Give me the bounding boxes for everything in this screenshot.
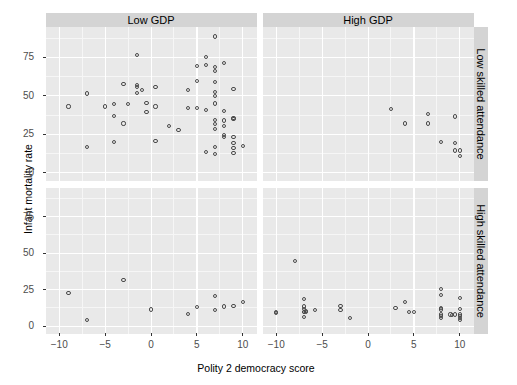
gridline-minor-vertical — [219, 188, 220, 334]
data-point — [439, 293, 443, 297]
data-point — [439, 287, 443, 291]
data-point — [222, 109, 226, 113]
data-point — [66, 104, 70, 108]
data-point — [293, 259, 297, 263]
panel-high-gdp-high-skilled-attendance — [263, 188, 474, 334]
data-point — [231, 151, 235, 155]
data-point — [121, 121, 125, 125]
gridline-major-vertical — [59, 27, 60, 181]
data-point — [302, 315, 306, 319]
data-point — [213, 145, 217, 149]
data-point — [112, 140, 116, 144]
x-axis-title: Polity 2 democracy score — [46, 362, 466, 374]
facet-strip-high-skilled-attendance: High skilled attendance — [474, 188, 488, 334]
data-point — [195, 106, 199, 110]
data-point — [453, 141, 457, 145]
gridline-minor-vertical — [82, 27, 83, 181]
data-point — [149, 307, 153, 311]
data-point — [66, 291, 70, 295]
gridline-major-vertical — [105, 188, 106, 334]
data-point — [213, 122, 217, 126]
gridline-minor-vertical — [345, 188, 346, 334]
data-point — [439, 140, 443, 144]
data-point — [112, 102, 116, 106]
data-point — [231, 117, 235, 121]
data-point — [204, 108, 208, 112]
data-point — [304, 310, 308, 314]
data-point — [85, 91, 89, 95]
data-point — [231, 146, 235, 150]
x-axis-tick-mark — [368, 333, 369, 336]
data-point — [153, 139, 157, 143]
data-point — [407, 310, 411, 314]
x-axis-tick-label: −5 — [307, 339, 337, 350]
gridline-major-vertical — [242, 188, 243, 334]
y-axis-tick-label: 25 — [8, 129, 34, 139]
y-axis-tick-label: 50 — [8, 91, 34, 101]
gridline-minor-vertical — [173, 27, 174, 181]
gridline-major-vertical — [151, 27, 152, 181]
data-point — [153, 85, 157, 89]
data-point — [153, 104, 157, 108]
data-point — [126, 102, 130, 106]
data-point — [348, 316, 352, 320]
data-point — [453, 312, 457, 316]
x-axis-tick-mark — [322, 333, 323, 336]
data-point — [222, 124, 226, 128]
gridline-minor-vertical — [299, 188, 300, 334]
data-point — [144, 110, 148, 114]
facet-strip-high-gdp: High GDP — [263, 13, 474, 27]
x-axis-tick-mark — [242, 333, 243, 336]
data-point — [313, 308, 317, 312]
data-point — [213, 69, 217, 73]
y-axis-tick-mark — [43, 289, 46, 290]
y-axis-tick-mark — [43, 216, 46, 217]
data-point — [121, 82, 125, 86]
data-point — [135, 91, 139, 95]
data-point — [393, 306, 397, 310]
data-point — [241, 144, 245, 148]
gridline-major-vertical — [151, 188, 152, 334]
data-point — [140, 88, 144, 92]
data-point — [453, 148, 457, 152]
data-point — [213, 294, 217, 298]
data-point — [85, 145, 89, 149]
y-axis-tick-mark — [43, 57, 46, 58]
panel-high-gdp-low-skilled-attendance — [263, 27, 474, 181]
data-point — [231, 304, 235, 308]
gridline-major-horizontal — [263, 216, 474, 217]
data-point — [222, 118, 226, 122]
data-point — [439, 316, 443, 320]
data-point — [213, 118, 217, 122]
x-axis-tick-mark — [59, 333, 60, 336]
data-point — [458, 148, 462, 152]
x-axis-tick-mark — [276, 333, 277, 336]
y-axis-tick-mark — [43, 326, 46, 327]
data-point — [231, 141, 235, 145]
data-point — [121, 278, 125, 282]
data-point — [85, 318, 89, 322]
data-point — [213, 80, 217, 84]
data-point — [167, 124, 171, 128]
data-point — [389, 107, 393, 111]
x-axis-tick-mark — [413, 333, 414, 336]
y-axis-tick-label: 25 — [8, 285, 34, 295]
x-axis-tick-label: 5 — [182, 339, 212, 350]
gridline-minor-vertical — [436, 27, 437, 181]
data-point — [439, 307, 443, 311]
data-point — [213, 34, 217, 38]
gridline-major-vertical — [276, 27, 277, 181]
gridline-major-horizontal — [263, 95, 474, 96]
gridline-major-horizontal — [46, 57, 257, 58]
y-axis-tick-label: 50 — [8, 248, 34, 258]
data-point — [222, 61, 226, 65]
gridline-major-horizontal — [46, 253, 257, 254]
x-axis-tick-mark — [459, 333, 460, 336]
gridline-major-horizontal — [46, 95, 257, 96]
x-axis-tick-mark — [151, 333, 152, 336]
y-axis-tick-label: 75 — [8, 52, 34, 62]
gridline-major-vertical — [196, 188, 197, 334]
gridline-minor-vertical — [219, 27, 220, 181]
y-axis-tick-mark — [43, 253, 46, 254]
data-point — [176, 128, 180, 132]
